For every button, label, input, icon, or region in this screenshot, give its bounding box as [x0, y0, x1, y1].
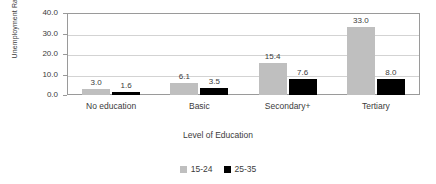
- legend-item[interactable]: 25-35: [224, 164, 257, 174]
- y-axis-tick-label: 20.0: [24, 49, 58, 58]
- x-axis-category-label: Tertiary: [332, 101, 420, 111]
- bar-value-label: 33.0: [353, 16, 369, 26]
- unemployment-rate-bar-chart: Unemployment Rate (%) 40.030.020.010.00.…: [0, 0, 436, 184]
- bar-pair: 15.47.6: [259, 63, 317, 95]
- legend-swatch-icon: [224, 166, 231, 173]
- y-axis-tick-mark: [63, 95, 67, 96]
- bar-value-label: 3.0: [91, 78, 102, 88]
- x-axis-category-label: No education: [67, 101, 155, 111]
- bar-group: 15.47.6: [244, 13, 332, 95]
- bar-value-label: 8.0: [385, 68, 396, 78]
- bar[interactable]: 6.1: [170, 83, 198, 96]
- bar-value-label: 15.4: [265, 52, 281, 62]
- bar-value-label: 1.6: [121, 81, 132, 91]
- bar-group: 3.01.6: [67, 13, 155, 95]
- x-axis-category-labels: No educationBasicSecondary+Tertiary: [67, 101, 420, 111]
- bar[interactable]: 1.6: [112, 92, 140, 95]
- legend-item[interactable]: 15-24: [180, 164, 213, 174]
- x-axis-title: Level of Education: [0, 130, 436, 140]
- bar-value-label: 3.5: [209, 77, 220, 87]
- y-axis-tick-label: 0.0: [24, 90, 58, 99]
- bar-pair: 3.01.6: [82, 89, 140, 95]
- bar-group: 6.13.5: [155, 13, 243, 95]
- x-axis-category-label: Basic: [155, 101, 243, 111]
- bar-pair: 33.08.0: [347, 27, 405, 95]
- legend: 15-2425-35: [0, 164, 436, 174]
- bar[interactable]: 8.0: [377, 79, 405, 95]
- bar[interactable]: 3.5: [200, 88, 228, 95]
- bar[interactable]: 7.6: [289, 79, 317, 95]
- bar-value-label: 6.1: [179, 72, 190, 82]
- x-axis-category-label: Secondary+: [244, 101, 332, 111]
- bar-groups: 3.01.66.13.515.47.633.08.0: [67, 13, 420, 95]
- bar[interactable]: 15.4: [259, 63, 287, 95]
- legend-label: 25-35: [235, 164, 257, 174]
- bar-group: 33.08.0: [332, 13, 420, 95]
- y-axis-tick-label: 30.0: [24, 29, 58, 38]
- y-axis-tick-label: 10.0: [24, 70, 58, 79]
- bar[interactable]: 3.0: [82, 89, 110, 95]
- legend-swatch-icon: [180, 166, 187, 173]
- bar[interactable]: 33.0: [347, 27, 375, 95]
- y-axis-title: Unemployment Rate (%): [11, 0, 25, 64]
- bar-pair: 6.13.5: [170, 83, 228, 96]
- y-axis-tick-label: 40.0: [24, 8, 58, 17]
- bar-value-label: 7.6: [297, 68, 308, 78]
- legend-label: 15-24: [191, 164, 213, 174]
